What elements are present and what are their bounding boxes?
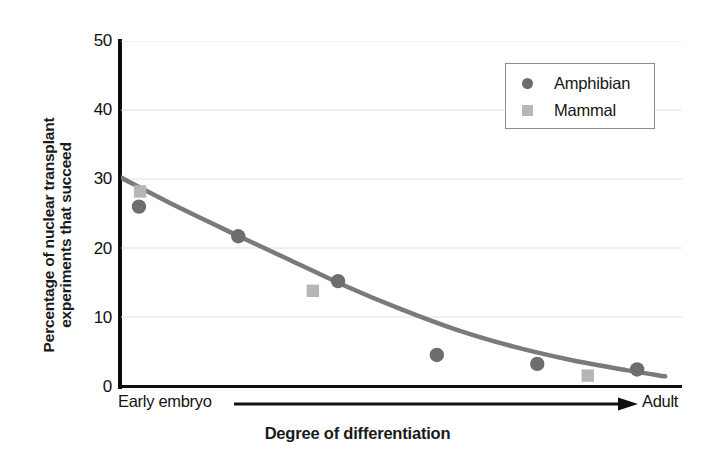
y-tick-label-10: 10 [74, 308, 112, 328]
y-tick-label-20: 20 [74, 239, 112, 259]
y-tick-label-30: 30 [74, 169, 112, 189]
x-axis-title: Degree of differentiation [0, 424, 715, 443]
data-points [132, 185, 645, 382]
legend-entry-amphibian: Amphibian [522, 70, 654, 97]
y-tick-label-50: 50 [74, 31, 112, 51]
x-axis-end-label: Adult [642, 392, 678, 411]
y-tick-label-0: 0 [74, 377, 112, 397]
y-axis-title-line-2: experiments that succeed [57, 142, 74, 328]
y-tick-label-40: 40 [74, 100, 112, 120]
legend-label-mammal: Mammal [544, 101, 616, 120]
data-point-amphibian-4 [530, 357, 544, 371]
data-point-mammal-2 [582, 369, 594, 381]
data-point-mammal-1 [307, 285, 319, 297]
trend-line-path [121, 178, 665, 377]
x-axis-start-label: Early embryo [118, 392, 212, 411]
legend-circle-icon [522, 78, 544, 89]
legend-square-icon [522, 105, 544, 116]
trend-line [121, 178, 665, 377]
data-point-amphibian-0 [132, 199, 146, 213]
chart-figure: Percentage of nuclear transplant experim… [0, 0, 715, 471]
legend-label-amphibian: Amphibian [544, 74, 630, 93]
data-point-amphibian-5 [630, 362, 644, 376]
data-point-amphibian-2 [331, 274, 345, 288]
data-point-amphibian-1 [231, 229, 245, 243]
legend: Amphibian Mammal [505, 63, 655, 129]
legend-entry-mammal: Mammal [522, 97, 654, 124]
data-point-amphibian-3 [430, 348, 444, 362]
y-axis-title-line-1: Percentage of nuclear transplant [40, 118, 57, 353]
data-point-mammal-0 [134, 185, 146, 197]
x-axis-arrow-icon [234, 396, 638, 412]
